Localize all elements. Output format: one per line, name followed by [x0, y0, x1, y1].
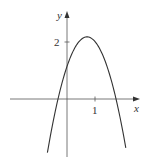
y-tick-label-2: 2 — [54, 36, 60, 48]
x-tick-label-1: 1 — [92, 104, 98, 116]
parabola-plot: y x 1 2 — [0, 0, 149, 168]
y-axis-label: y — [56, 9, 62, 21]
x-axis-label: x — [133, 102, 139, 114]
parabola-curve — [47, 37, 125, 153]
x-axis-arrow-icon — [133, 97, 140, 102]
y-axis-arrow-icon — [65, 11, 70, 18]
